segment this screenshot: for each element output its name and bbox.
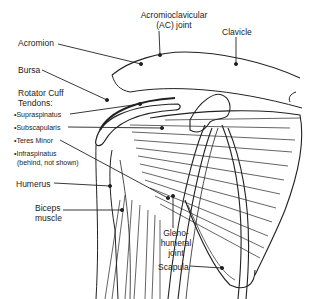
label-humerus: Humerus (16, 179, 50, 189)
label-infraspinatus: •Infraspinatus (14, 149, 57, 158)
label-biceps-line1: Biceps (35, 203, 62, 213)
label-scapula: Scapula (158, 262, 189, 272)
label-gleno-line3: joint (158, 248, 194, 258)
label-ac-joint-line1: Acromioclavicular (124, 10, 224, 20)
label-ac-joint: Acromioclavicular (AC) joint (124, 10, 224, 30)
label-clavicle: Clavicle (222, 27, 252, 37)
label-biceps: Biceps muscle (35, 203, 62, 223)
label-supraspinatus: •Supraspinatus (14, 110, 61, 119)
label-rotator-cuff: Rotator Cuff (18, 88, 64, 98)
label-infraspinatus-note: (behind, not shown) (17, 158, 78, 167)
label-teres-minor: •Teres Minor (14, 136, 53, 145)
shoulder-diagram: Acromioclavicular (AC) joint Clavicle Ac… (0, 0, 314, 299)
label-tendons: Tendons: (18, 98, 53, 108)
label-ac-joint-line2: (AC) joint (124, 20, 224, 30)
label-glenohumeral-joint: Gleno- humeral joint (158, 228, 194, 258)
label-subscapularis: •Subscapularis (14, 123, 60, 132)
label-bursa: Bursa (18, 65, 40, 75)
label-acromion: Acromion (18, 38, 54, 48)
label-gleno-line1: Gleno- (158, 228, 194, 238)
label-biceps-line2: muscle (35, 213, 62, 223)
label-gleno-line2: humeral (158, 238, 194, 248)
